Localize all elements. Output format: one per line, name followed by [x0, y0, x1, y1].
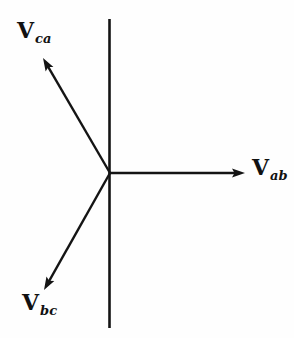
label-v-ca-subscript: ca — [35, 31, 51, 46]
vector-arrowhead-V_ca — [43, 58, 53, 71]
label-v-ab-subscript: ab — [270, 168, 288, 183]
label-v-ab: Vab — [252, 156, 287, 178]
label-v-ca: Vca — [17, 19, 50, 41]
label-v-bc-subscript: bc — [40, 303, 57, 318]
label-v-bc: Vbc — [22, 291, 56, 313]
label-v-ca-symbol: V — [17, 17, 34, 43]
label-v-bc-symbol: V — [22, 289, 39, 315]
phasor-diagram: Vca Vab Vbc — [0, 0, 294, 338]
vector-shaft-V_bc — [49, 173, 110, 281]
label-v-ab-symbol: V — [252, 154, 269, 180]
vector-shaft-V_ca — [48, 67, 110, 173]
phasor-svg — [0, 0, 294, 338]
